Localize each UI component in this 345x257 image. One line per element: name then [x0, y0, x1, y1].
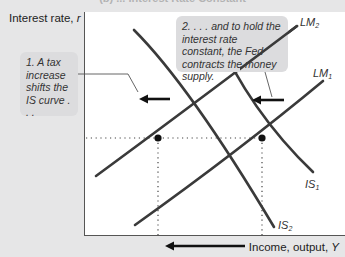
callout-1-leader	[78, 74, 138, 92]
callout-2-leader	[265, 72, 272, 97]
lm-shift-arrow	[252, 96, 284, 105]
is-shift-arrow	[139, 95, 170, 104]
x-axis-label: Income, output, Y	[249, 241, 339, 253]
equilibrium-point-a	[154, 134, 161, 141]
callout-fed-contracts: 2. . . . and to hold the interest rate c…	[176, 16, 288, 72]
guide-lines	[86, 138, 262, 235]
is-lm-chart	[0, 0, 345, 257]
lm2-label: LM2	[300, 16, 319, 29]
is2-label: IS2	[278, 219, 292, 232]
is1-label: IS1	[305, 178, 319, 191]
x-axis-label-row: Income, output, Y	[0, 239, 345, 257]
callout-tax-increase: 1. A tax increase shifts the IS curve . …	[20, 52, 78, 116]
equilibrium-point-b	[258, 134, 265, 141]
lm1-label: LM1	[313, 67, 332, 80]
